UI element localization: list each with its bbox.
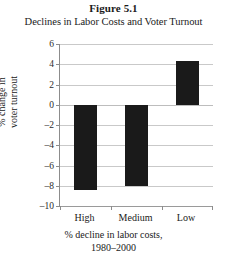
y-tick-neg4 [56,145,60,146]
y-axis-title-line1: % change in [0,77,7,126]
plot-wrapper: % change in voter turnout 6 4 2 0 –2 –4 [0,40,227,212]
x-axis-category-row: High Medium Low [59,212,212,226]
figure-number: Figure 5.1 [0,2,227,15]
y-tick-4 [56,64,60,65]
y-tick-neg6 [56,166,60,167]
figure-container: Figure 5.1 Declines in Labor Costs and V… [0,0,227,269]
y-tick-2 [56,85,60,86]
plot-area: 6 4 2 0 –2 –4 –6 –8 –10 [59,44,213,206]
x-axis-title: % decline in labor costs, 1980–2000 [0,228,227,254]
bar-high [74,105,97,190]
title-block: Figure 5.1 Declines in Labor Costs and V… [0,2,227,28]
x-axis-title-line2: 1980–2000 [0,241,227,254]
x-tick-1 [111,206,112,210]
y-axis-title: % change in voter turnout [0,42,20,162]
x-tick-0 [60,206,61,210]
y-tick-label-0: 0 [49,100,54,110]
y-tick-label-6: 6 [49,39,54,49]
x-axis-title-line1: % decline in labor costs, [0,228,227,241]
y-tick-neg2 [56,125,60,126]
x-tick-3 [212,206,213,210]
y-tick-label-neg4: –4 [45,140,55,150]
y-tick-label-neg6: –6 [45,161,55,171]
bar-medium [125,105,148,186]
y-tick-label-2: 2 [49,80,54,90]
y-tick-label-neg8: –8 [45,181,55,191]
y-tick-label-neg2: –2 [45,120,55,130]
y-tick-label-4: 4 [49,59,54,69]
y-tick-6 [56,44,60,45]
y-tick-neg8 [56,186,60,187]
x-category-medium: Medium [119,212,153,224]
gridline-neg10 [60,206,213,207]
x-category-low: Low [177,212,195,224]
y-tick-label-neg10: –10 [40,201,54,211]
y-tick-0 [56,105,60,106]
figure-caption: Declines in Labor Costs and Voter Turnou… [0,15,227,28]
gridline-6 [60,44,213,45]
x-category-high: High [75,212,95,224]
x-tick-2 [162,206,163,210]
y-axis-title-line2: voter turnout [8,42,20,162]
bar-low [176,61,199,105]
